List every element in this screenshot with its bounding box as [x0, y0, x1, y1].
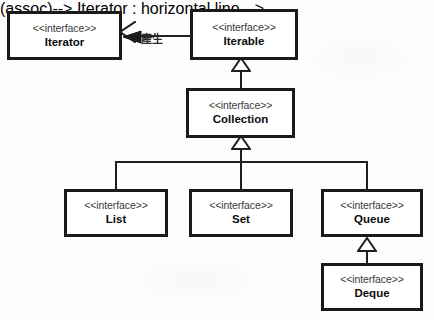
class-box-list[interactable]: <<interface>> List	[66, 191, 166, 235]
generalization-drop-list	[115, 161, 117, 192]
stereotype-label: <<interface>>	[212, 21, 276, 33]
generalization-line-deque-queue	[366, 250, 368, 266]
uml-class-diagram: (assoc)--> Iterator : horizontal line --…	[0, 0, 434, 320]
interface-name: Set	[232, 212, 250, 226]
generalization-drop-queue	[366, 161, 368, 192]
class-box-queue[interactable]: <<interface>> Queue	[323, 191, 421, 235]
stereotype-label: <<interface>>	[33, 22, 97, 34]
class-box-collection[interactable]: <<interface>> Collection	[188, 90, 293, 136]
interface-name: Iterator	[45, 35, 85, 49]
scan-artifact	[300, 30, 420, 85]
interface-name: Queue	[354, 212, 390, 226]
class-box-deque[interactable]: <<interface>> Deque	[323, 265, 421, 309]
stereotype-label: <<interface>>	[340, 273, 404, 285]
interface-name: List	[106, 212, 126, 226]
association-label-produces: 產生	[141, 30, 163, 46]
stereotype-label: <<interface>>	[209, 199, 273, 211]
interface-name: Deque	[354, 286, 389, 300]
class-box-set[interactable]: <<interface>> Set	[191, 191, 291, 235]
stereotype-label: <<interface>>	[340, 199, 404, 211]
interface-name: Collection	[213, 112, 269, 126]
stereotype-label: <<interface>>	[84, 199, 148, 211]
scan-artifact	[120, 255, 270, 305]
generalization-triangle-iterable-icon	[231, 57, 251, 72]
association-solid-triangle-icon	[122, 29, 142, 45]
class-box-iterator[interactable]: <<interface>> Iterator	[9, 13, 120, 58]
interface-name: Iterable	[224, 34, 265, 48]
generalization-triangle-collection-icon	[231, 135, 251, 150]
stereotype-label: <<interface>>	[209, 99, 273, 111]
generalization-drop-set	[240, 161, 242, 192]
generalization-triangle-queue-icon	[357, 237, 377, 252]
class-box-iterable[interactable]: <<interface>> Iterable	[192, 11, 296, 58]
